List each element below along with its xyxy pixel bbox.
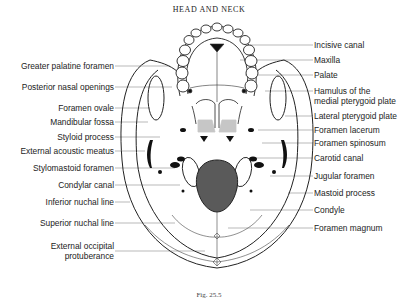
palate [188,44,246,102]
label-left: Condylar canal [58,180,114,190]
label-left: Styloid process [57,132,114,142]
label-left: External acoustic meatus [20,146,114,156]
label-right: Condyle [314,205,345,215]
label-left: Inferior nuchal line [46,197,114,207]
label-right: Palate [314,70,338,80]
label-left: Foramen ovale [58,103,114,113]
label-right: Incisive canal [314,40,364,50]
pterygoid-region [192,100,242,133]
label-left: Mandibular fossa [50,117,114,127]
figure-caption: Fig. 25.5 [0,291,418,298]
label-left: Posterior nasal openings [22,82,114,92]
label-left: protuberance [65,251,114,261]
nuchal-lines [145,212,289,266]
label-right: medial pterygoid plate [314,96,396,106]
label-right: Carotid canal [314,153,363,163]
label-right: Lateral pterygoid plate [314,111,397,121]
label-left: Greater palatine foramen [21,61,114,71]
label-left: External occipital [51,241,114,251]
page-title: HEAD AND NECK [0,5,418,14]
foramen-magnum [196,160,237,212]
label-right: Foramen lacerum [314,125,380,135]
label-right: Jugular foramen [314,171,375,181]
label-right: Foramen magnum [314,223,382,233]
label-left: Stylomastoid foramen [33,163,114,173]
leader-lines-right [228,45,313,228]
label-right: Maxilla [314,55,340,65]
label-right: Foramen spinosum [314,138,386,148]
label-right: Hamulus of the [314,86,370,96]
label-left: Superior nuchal line [40,218,114,228]
label-right: Mastoid process [314,188,375,198]
